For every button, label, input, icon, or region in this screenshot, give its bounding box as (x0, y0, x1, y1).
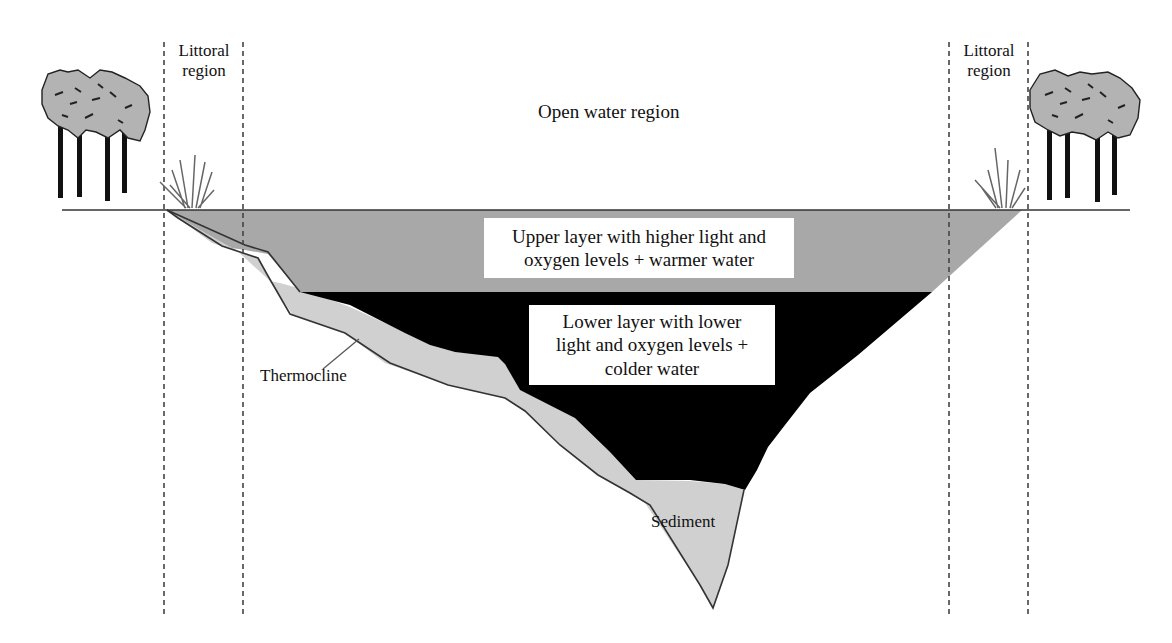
thermocline-pointer (323, 339, 359, 369)
upper-layer-label-box: Upper layer with higher light and oxygen… (484, 218, 794, 278)
thermocline-label: Thermocline (260, 366, 347, 386)
littoral-left-line2: region (164, 61, 244, 81)
upper-layer-line1: Upper layer with higher light and (512, 225, 766, 248)
lower-layer-line3: colder water (556, 357, 748, 380)
lower-layer-line1: Lower layer with lower (556, 310, 748, 333)
littoral-region-left-label: Littoral region (164, 41, 244, 80)
littoral-right-line1: Littoral (949, 41, 1029, 61)
littoral-region-right-label: Littoral region (949, 41, 1029, 80)
tree-cluster-icon (42, 70, 150, 201)
reed-grass-icon (160, 155, 214, 208)
sediment-label: Sediment (651, 512, 715, 532)
tree-cluster-icon (1030, 70, 1140, 202)
littoral-right-line2: region (949, 61, 1029, 81)
littoral-left-line1: Littoral (164, 41, 244, 61)
upper-layer-line2: oxygen levels + warmer water (512, 248, 766, 271)
lower-layer-label-box: Lower layer with lower light and oxygen … (529, 305, 775, 385)
lower-layer-line2: light and oxygen levels + (556, 333, 748, 356)
open-water-region-label: Open water region (538, 101, 679, 123)
reed-grass-icon (975, 148, 1025, 208)
